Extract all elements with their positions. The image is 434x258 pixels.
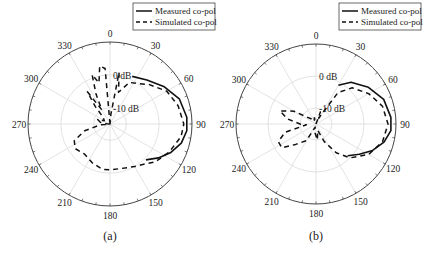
grid-spoke [69, 124, 110, 195]
radial-label-minus10db: -10 dB [319, 104, 345, 114]
angle-tick-label: 270 [220, 120, 235, 130]
angle-tick-label: 90 [196, 120, 206, 130]
figure: 03060901201501802102402703003300 dB-10 d… [0, 0, 434, 258]
grid-spoke [110, 124, 151, 195]
angle-tick-label: 180 [309, 209, 324, 219]
legend-entry: Simulated co-pol [361, 17, 423, 27]
radial-label-minus10db: -10 dB [113, 104, 139, 114]
angle-tick-label: 270 [12, 120, 27, 130]
radial-label-0db: 0 dB [113, 71, 131, 81]
angle-tick-label: 30 [151, 41, 161, 51]
angle-tick-label: 120 [182, 165, 197, 175]
grid-spoke [69, 53, 110, 124]
angle-tick-label: 60 [388, 75, 398, 85]
radial-label-0db: 0 dB [319, 72, 337, 82]
legend-entry: Measured co-pol [155, 6, 216, 16]
grid-spoke [316, 124, 385, 164]
angle-tick-label: 90 [400, 120, 410, 130]
legend-entry: Simulated co-pol [155, 17, 217, 27]
polar-chart-b: 03060901201501802102402703003300 dB-10 d… [220, 3, 423, 219]
angle-tick-label: 150 [148, 198, 163, 208]
angle-tick-label: 330 [264, 42, 279, 52]
angle-tick-label: 210 [264, 197, 279, 207]
legend: Measured co-polSimulated co-pol [339, 3, 423, 30]
angle-tick-label: 0 [314, 31, 319, 41]
angle-tick-label: 180 [103, 211, 118, 221]
angle-tick-label: 120 [386, 164, 401, 174]
series-measured-co-pol [338, 82, 391, 155]
angle-tick-label: 150 [353, 197, 368, 207]
polar-plots: 03060901201501802102402703003300 dB-10 d… [0, 0, 434, 258]
grid-spoke [247, 84, 316, 124]
legend: Measured co-polSimulated co-pol [133, 3, 217, 30]
angle-tick-label: 240 [24, 165, 39, 175]
angle-tick-label: 210 [57, 198, 72, 208]
angle-tick-label: 330 [57, 41, 72, 51]
grid-spoke [247, 124, 316, 164]
angle-tick-label: 60 [184, 74, 194, 84]
series-simulated-co-pol [278, 88, 388, 158]
grid-spoke [110, 124, 181, 165]
angle-tick-label: 300 [24, 74, 39, 84]
grid-spoke [316, 124, 356, 193]
angle-tick-label: 0 [108, 29, 113, 39]
polar-chart-a: 03060901201501802102402703003300 dB-10 d… [12, 3, 217, 221]
legend-entry: Measured co-pol [361, 6, 422, 16]
caption-a: (a) [103, 229, 116, 243]
caption-b: (b) [309, 229, 323, 243]
angle-tick-label: 30 [356, 42, 366, 52]
angle-tick-label: 300 [232, 75, 247, 85]
angle-tick-label: 240 [232, 164, 247, 174]
